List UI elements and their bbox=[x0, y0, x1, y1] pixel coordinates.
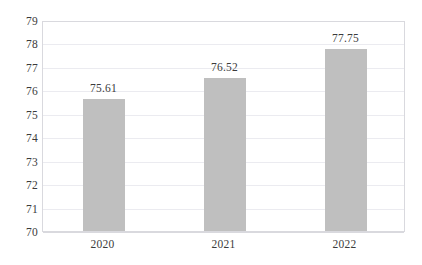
y-tick-label: 74 bbox=[0, 132, 38, 144]
x-axis: 202020212022 bbox=[42, 236, 405, 258]
bar-value-label: 75.61 bbox=[90, 82, 117, 95]
bar-value-label: 77.75 bbox=[332, 32, 359, 45]
y-tick-label: 75 bbox=[0, 109, 38, 121]
y-tick-label: 78 bbox=[0, 38, 38, 50]
bar-value-label: 76.52 bbox=[211, 61, 238, 74]
x-tick-label: 2020 bbox=[42, 236, 163, 258]
y-tick-label: 79 bbox=[0, 15, 38, 27]
y-tick-label: 72 bbox=[0, 179, 38, 191]
bar-group: 75.61 bbox=[43, 20, 164, 231]
gridline bbox=[43, 232, 404, 233]
y-tick-label: 70 bbox=[0, 226, 38, 238]
y-tick-label: 73 bbox=[0, 156, 38, 168]
bar[interactable] bbox=[83, 99, 125, 231]
plot-area: 75.6176.5277.75 bbox=[42, 21, 405, 232]
bar-chart: 79787776757473727170 75.6176.5277.75 202… bbox=[0, 0, 422, 265]
y-tick-label: 71 bbox=[0, 203, 38, 215]
y-tick-label: 77 bbox=[0, 62, 38, 74]
x-tick-label: 2022 bbox=[284, 236, 405, 258]
y-tick-label: 76 bbox=[0, 85, 38, 97]
bar-group: 77.75 bbox=[285, 20, 406, 231]
bar[interactable] bbox=[204, 78, 246, 231]
y-axis: 79787776757473727170 bbox=[0, 0, 38, 265]
bar[interactable] bbox=[325, 49, 367, 231]
bar-group: 76.52 bbox=[164, 20, 285, 231]
x-tick-label: 2021 bbox=[163, 236, 284, 258]
